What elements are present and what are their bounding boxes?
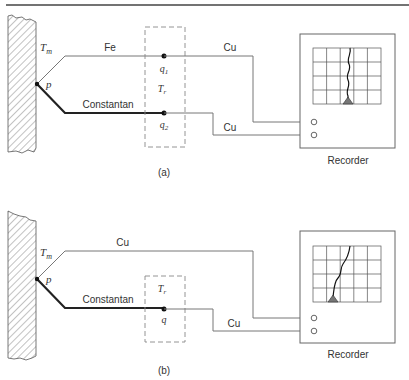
panel-b: Tm p Cu Constantan Tr q Cu Recorder (b) <box>8 211 395 376</box>
recorder-terminal-2 <box>311 132 317 138</box>
label-q: q <box>162 314 167 325</box>
label-cu-bottom: Cu <box>228 318 241 329</box>
wire-cu-bottom <box>164 113 310 135</box>
wall-hatched <box>8 211 36 360</box>
label-recorder: Recorder <box>327 349 369 360</box>
recorder-terminal-2 <box>311 328 317 334</box>
label-cu-bottom: Cu <box>224 122 237 133</box>
label-tm: Tm <box>40 246 52 261</box>
caption-b: (b) <box>158 365 170 376</box>
thermocouple-diagram: Tm p Fe Constantan q1 Tr q2 Cu Cu Record… <box>0 0 409 380</box>
label-cu-top: Cu <box>116 237 129 248</box>
label-tm: Tm <box>40 41 52 56</box>
label-cu-top: Cu <box>224 42 237 53</box>
junction-p-dot <box>35 277 39 281</box>
label-p: p <box>45 78 52 90</box>
caption-a: (a) <box>158 167 170 178</box>
label-p: p <box>45 273 52 285</box>
panel-a: Tm p Fe Constantan q1 Tr q2 Cu Cu Record… <box>8 15 395 178</box>
label-q2: q2 <box>160 119 169 132</box>
recorder-terminal-1 <box>311 119 317 125</box>
wall-hatched <box>8 15 36 153</box>
label-fe: Fe <box>104 42 116 53</box>
label-constantan: Constantan <box>82 99 133 110</box>
label-tr: Tr <box>158 83 167 96</box>
recorder-terminal-1 <box>311 315 317 321</box>
label-q1: q1 <box>160 63 169 76</box>
wire-cu-top <box>164 56 310 122</box>
label-recorder: Recorder <box>327 155 369 166</box>
junction-p-dot <box>35 82 39 86</box>
label-constantan: Constantan <box>82 294 133 305</box>
label-tr: Tr <box>158 283 167 296</box>
